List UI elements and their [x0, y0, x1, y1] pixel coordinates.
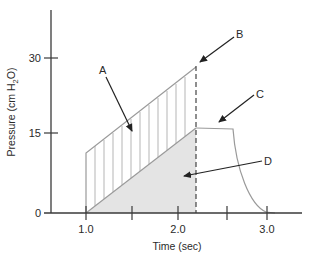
x-axis-title: Time (sec): [152, 240, 201, 252]
y-tick-label-0: 0: [35, 207, 41, 219]
label-c: C: [256, 88, 264, 100]
pressure-time-diagram: 30 15 0 1.0 2.0 3.0 Time (sec) Pressure …: [0, 0, 310, 256]
label-b: B: [236, 28, 243, 40]
y-tick-label-15: 15: [29, 127, 41, 139]
svg-text:Pressure (cm H2O): Pressure (cm H2O): [5, 68, 20, 157]
x-tick-label-2: 2.0: [170, 223, 185, 235]
y-axis-title-suffix: O): [5, 68, 17, 80]
label-a: A: [99, 64, 107, 76]
plateau-decay-curve: [196, 128, 275, 213]
arrow-c: [219, 95, 254, 122]
y-axis-title-prefix: Pressure (cm H: [5, 83, 17, 156]
arrow-b: [200, 37, 234, 62]
arrow-a: [106, 77, 132, 131]
x-tick-label-3: 3.0: [259, 223, 274, 235]
label-d: D: [264, 155, 272, 167]
x-tick-label-1: 1.0: [78, 223, 93, 235]
y-tick-label-30: 30: [29, 52, 41, 64]
y-axis-title: Pressure (cm H2O): [5, 68, 20, 157]
